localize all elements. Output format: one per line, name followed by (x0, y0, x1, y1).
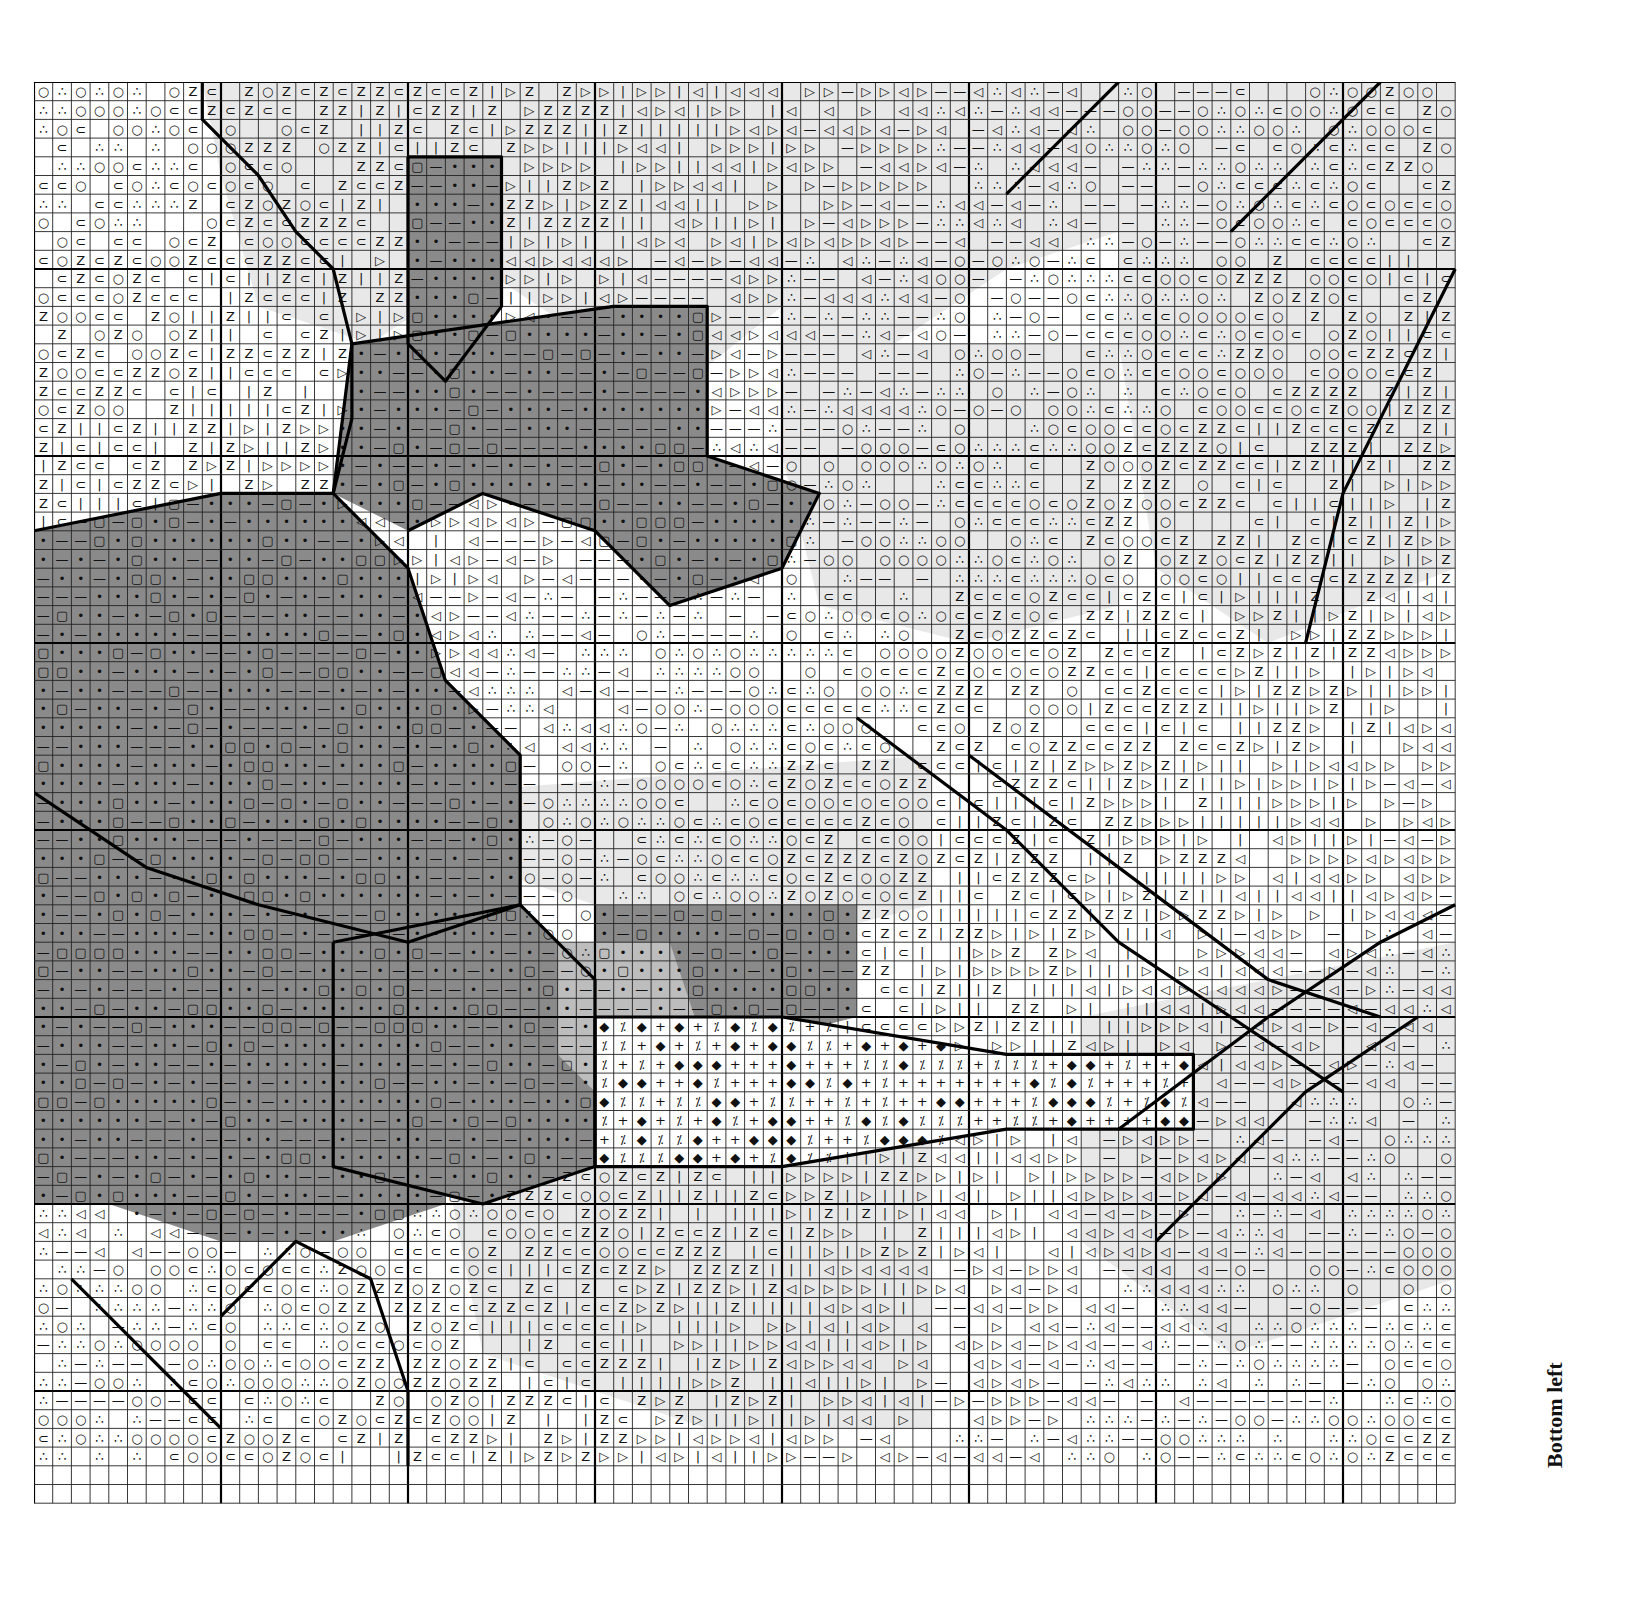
svg-text:⊂: ⊂ (1440, 1319, 1451, 1334)
svg-text:○: ○ (225, 178, 236, 193)
svg-text:|: | (1032, 1038, 1036, 1053)
svg-text:⊂: ⊂ (300, 122, 311, 137)
svg-text:▷: ▷ (394, 327, 404, 342)
svg-text:○: ○ (1197, 178, 1208, 193)
svg-text:—: — (635, 290, 648, 305)
svg-text:⊂: ⊂ (1309, 402, 1320, 417)
svg-text:—: — (654, 683, 667, 698)
svg-text:⊂: ⊂ (169, 1449, 180, 1464)
svg-text:•: • (77, 684, 84, 698)
svg-text:∴: ∴ (899, 253, 907, 268)
svg-text:▢: ▢ (636, 926, 648, 941)
svg-text:•: • (339, 1076, 346, 1090)
svg-text:▢: ▢ (224, 814, 236, 829)
svg-text:⊂: ⊂ (618, 1281, 629, 1296)
svg-text:|: | (1219, 814, 1223, 829)
svg-text:•: • (339, 1095, 346, 1109)
svg-text:—: — (448, 945, 461, 960)
svg-text:▷: ▷ (1385, 552, 1395, 567)
svg-text:⊂: ⊂ (1141, 701, 1152, 716)
svg-text:▢: ▢ (580, 346, 592, 361)
svg-text:|: | (191, 402, 195, 417)
svg-text:∴: ∴ (1330, 103, 1338, 118)
svg-text:+: + (618, 1113, 629, 1128)
svg-text:◁: ◁ (562, 739, 572, 754)
svg-text:+: + (655, 1019, 666, 1034)
svg-text:▷: ▷ (1254, 701, 1264, 716)
svg-text:⊂: ⊂ (935, 814, 946, 829)
svg-text:•: • (302, 628, 309, 642)
svg-text:Z: Z (1423, 103, 1432, 118)
svg-text:Z: Z (1123, 477, 1132, 492)
svg-text:—: — (411, 776, 424, 791)
svg-text:•: • (320, 1039, 327, 1053)
svg-text:•: • (283, 815, 290, 829)
svg-text:|: | (658, 122, 662, 137)
svg-text:•: • (657, 1002, 664, 1016)
svg-text:—: — (804, 440, 817, 455)
svg-text:⊂: ⊂ (599, 1337, 610, 1352)
svg-text:○: ○ (860, 664, 871, 679)
svg-text:○: ○ (1234, 159, 1245, 174)
svg-text:—: — (747, 589, 760, 604)
svg-text:◁: ◁ (899, 84, 909, 99)
svg-text:—: — (299, 683, 312, 698)
svg-text:•: • (395, 347, 402, 361)
svg-text:•: • (414, 1151, 421, 1165)
svg-text:—: — (710, 365, 723, 380)
svg-text:▢: ▢ (692, 982, 704, 997)
svg-text:—: — (504, 384, 517, 399)
svg-text:—: — (579, 776, 592, 791)
svg-text:⊂: ⊂ (1010, 571, 1021, 586)
svg-text:—: — (1346, 1300, 1359, 1315)
svg-text:◁: ◁ (618, 701, 628, 716)
svg-text:⁒: ⁒ (882, 1094, 888, 1109)
svg-text:○: ○ (1197, 103, 1208, 118)
svg-text:∴: ∴ (58, 197, 66, 212)
svg-text:○: ○ (1197, 384, 1208, 399)
svg-text:⊂: ⊂ (38, 421, 49, 436)
svg-text:Z: Z (226, 309, 235, 324)
svg-text:▢: ▢ (149, 851, 161, 866)
svg-text:▷: ▷ (861, 122, 871, 137)
svg-text:∴: ∴ (1217, 1337, 1225, 1352)
svg-text:⊂: ⊂ (1216, 365, 1227, 380)
svg-text:▷: ▷ (637, 1300, 647, 1315)
svg-text:⊂: ⊂ (1160, 365, 1171, 380)
svg-text:▷: ▷ (1273, 907, 1283, 922)
svg-text:•: • (283, 871, 290, 885)
svg-text:•: • (77, 1020, 84, 1034)
svg-text:▷: ▷ (450, 627, 460, 642)
svg-text:∴: ∴ (694, 758, 702, 773)
svg-text:—: — (654, 907, 667, 922)
svg-text:—: — (56, 1188, 69, 1203)
svg-text:∴: ∴ (1068, 253, 1076, 268)
svg-text:○: ○ (879, 496, 890, 511)
svg-text:⊂: ⊂ (861, 1001, 872, 1016)
svg-text:|: | (153, 440, 157, 455)
svg-text:|: | (172, 421, 176, 436)
svg-text:○: ○ (1403, 1094, 1414, 1109)
svg-text:▢: ▢ (374, 945, 386, 960)
svg-text:◁: ◁ (712, 327, 722, 342)
svg-text:⊂: ⊂ (449, 84, 460, 99)
svg-text:∴: ∴ (825, 477, 833, 492)
svg-text:•: • (96, 1039, 103, 1053)
svg-text:▷: ▷ (525, 103, 535, 118)
svg-text:○: ○ (954, 346, 965, 361)
svg-text:|: | (733, 1412, 737, 1427)
svg-text:—: — (1271, 1337, 1284, 1352)
svg-text:⊂: ⊂ (1422, 234, 1433, 249)
svg-text:—: — (486, 327, 499, 342)
svg-text:•: • (227, 497, 234, 511)
svg-text:○: ○ (617, 814, 628, 829)
svg-text:—: — (37, 814, 50, 829)
svg-text:—: — (785, 945, 798, 960)
svg-text:—: — (991, 365, 1004, 380)
svg-text:•: • (563, 1002, 570, 1016)
svg-text:◁: ◁ (955, 1150, 965, 1165)
svg-text:•: • (320, 1095, 327, 1109)
svg-text:•: • (40, 889, 47, 903)
svg-text:—: — (243, 963, 256, 978)
svg-text:—: — (523, 758, 536, 773)
